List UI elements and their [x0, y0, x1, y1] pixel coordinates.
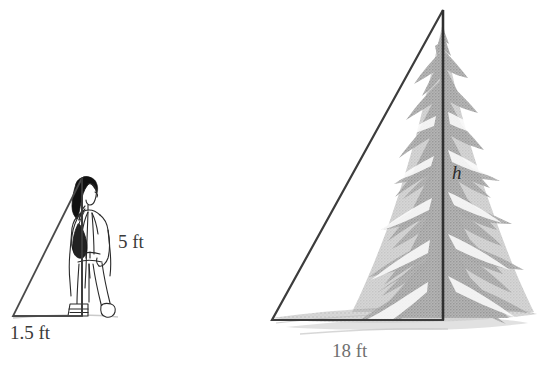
label-tree-shadow-length: 18 ft: [332, 341, 367, 360]
label-person-shadow-length: 1.5 ft: [10, 323, 50, 342]
label-tree-height: h: [452, 163, 462, 182]
similar-triangles-figure: [0, 0, 545, 368]
person-right-shoe: [101, 303, 116, 317]
person-left-shoe: [68, 304, 88, 316]
label-person-height: 5 ft: [118, 232, 144, 251]
